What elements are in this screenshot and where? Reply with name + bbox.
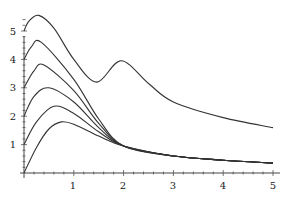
y-tick-label: 1: [10, 139, 16, 150]
y-tick-label: 3: [10, 82, 16, 93]
x-tick-label: 4: [220, 180, 226, 191]
curve-4-line: [24, 40, 273, 163]
x-tick-label: 2: [120, 180, 126, 191]
y-tick-labels: 1 2 3 4 5: [10, 26, 16, 150]
curve-3-line: [24, 64, 273, 163]
y-tick-label: 2: [10, 111, 16, 122]
x-tick-label: 1: [70, 180, 76, 191]
y-tick-label: 5: [10, 26, 16, 37]
curve-1-line: [24, 106, 273, 163]
x-tick-label: 3: [170, 180, 176, 191]
curve-5-line: [24, 15, 273, 127]
line-chart: 1 2 3 4 5 1 2 3 4 5: [0, 0, 288, 197]
y-tick-label: 4: [10, 54, 16, 65]
x-tick-label: 5: [270, 180, 276, 191]
curve-0-line: [24, 122, 273, 173]
x-tick-labels: 1 2 3 4 5: [70, 180, 276, 191]
curves: [24, 15, 273, 173]
